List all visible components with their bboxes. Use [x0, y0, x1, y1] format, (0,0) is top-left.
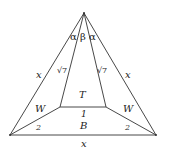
angle-alpha-left: α [70, 31, 77, 42]
side-left-inner-label: √7 [57, 66, 67, 75]
base-right-point [155, 134, 157, 136]
lower-right-label: 2 [124, 123, 130, 132]
side-right-outer-label: x [125, 69, 131, 80]
angle-alpha-right: α [89, 31, 96, 42]
side-right-inner-label: √7 [97, 66, 107, 75]
geometry-diagram: α β α x x √7 √7 T W W B 1 2 2 x [0, 0, 169, 153]
inner-right-edge [84, 13, 106, 107]
lower-left-label: 2 [35, 123, 41, 132]
region-b-label: B [79, 120, 87, 131]
region-w-right-label: W [123, 103, 134, 114]
side-left-outer-label: x [36, 69, 42, 80]
base-label: x [81, 138, 87, 149]
apex-point [83, 12, 85, 14]
angle-beta: β [80, 31, 86, 42]
region-t-label: T [79, 89, 87, 100]
base-left-point [9, 134, 11, 136]
region-w-left-label: W [35, 103, 46, 114]
inner-base-label: 1 [81, 109, 87, 119]
